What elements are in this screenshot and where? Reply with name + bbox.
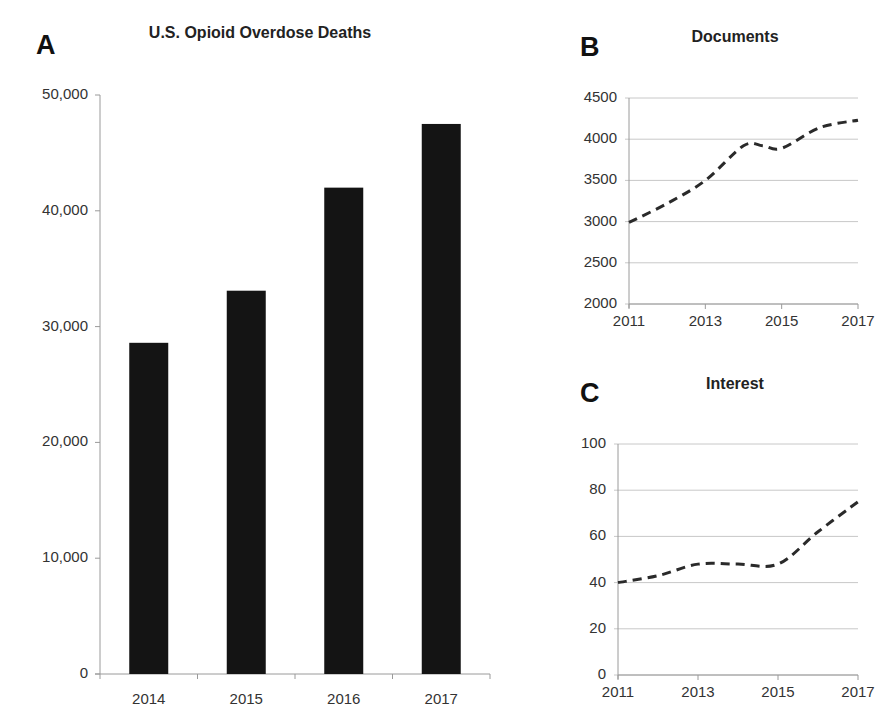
chart-c-y-tick-label: 40 xyxy=(536,573,606,590)
chart-b-y-tick-label: 2500 xyxy=(547,253,617,270)
chart-a-bar-chart xyxy=(0,0,890,727)
chart-a-y-tick-label: 50,000 xyxy=(18,85,88,102)
chart-c-title: Interest xyxy=(650,375,820,393)
chart-c-x-tick-label: 2013 xyxy=(668,683,728,700)
chart-a-x-tick-label: 2014 xyxy=(119,690,179,707)
chart-a-y-tick-label: 10,000 xyxy=(18,548,88,565)
chart-c-x-tick-label: 2017 xyxy=(828,683,888,700)
chart-c-x-tick-label: 2011 xyxy=(588,683,648,700)
chart-b-y-tick-label: 2000 xyxy=(547,294,617,311)
chart-c-y-tick-label: 0 xyxy=(536,665,606,682)
chart-b-title: Documents xyxy=(650,28,820,46)
panel-b-letter: B xyxy=(580,32,600,63)
panel-c-letter: C xyxy=(580,378,600,409)
chart-b-y-tick-label: 3500 xyxy=(547,170,617,187)
chart-c-data-line xyxy=(618,502,858,583)
chart-b-data-line xyxy=(629,120,858,222)
chart-b-y-tick-label: 3000 xyxy=(547,212,617,229)
chart-a-x-tick-label: 2017 xyxy=(411,690,471,707)
chart-b-x-tick-label: 2015 xyxy=(752,312,812,329)
chart-c-y-tick-label: 20 xyxy=(536,619,606,636)
chart-a-y-tick-label: 20,000 xyxy=(18,432,88,449)
chart-a-y-tick-label: 30,000 xyxy=(18,317,88,334)
chart-b-y-tick-label: 4000 xyxy=(547,129,617,146)
chart-b-x-tick-label: 2017 xyxy=(828,312,888,329)
chart-a-bar xyxy=(324,188,363,674)
chart-a-bar xyxy=(422,124,461,674)
chart-b-x-tick-label: 2013 xyxy=(675,312,735,329)
chart-c-y-tick-label: 80 xyxy=(536,480,606,497)
chart-c-y-tick-label: 60 xyxy=(536,526,606,543)
chart-a-bar xyxy=(129,343,168,674)
chart-a-y-tick-label: 0 xyxy=(18,664,88,681)
chart-a-bar xyxy=(227,291,266,674)
chart-b-x-tick-label: 2011 xyxy=(599,312,659,329)
chart-c-x-tick-label: 2015 xyxy=(748,683,808,700)
chart-c-y-tick-label: 100 xyxy=(536,434,606,451)
chart-a-y-tick-label: 40,000 xyxy=(18,201,88,218)
chart-b-y-tick-label: 4500 xyxy=(547,88,617,105)
chart-a-x-tick-label: 2015 xyxy=(216,690,276,707)
chart-a-x-tick-label: 2016 xyxy=(314,690,374,707)
